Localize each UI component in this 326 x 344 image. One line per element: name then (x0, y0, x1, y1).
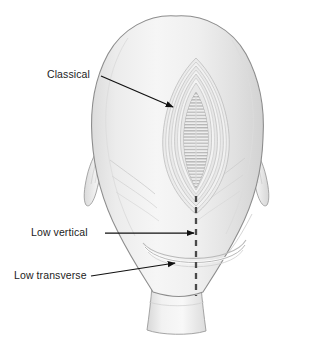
uterus-illustration (0, 0, 326, 344)
label-classical: Classical (47, 68, 90, 80)
uterine-incision-figure: Classical Low vertical Low transverse (0, 0, 326, 344)
label-low-vertical: Low vertical (31, 226, 88, 238)
label-low-transverse: Low transverse (14, 269, 87, 281)
